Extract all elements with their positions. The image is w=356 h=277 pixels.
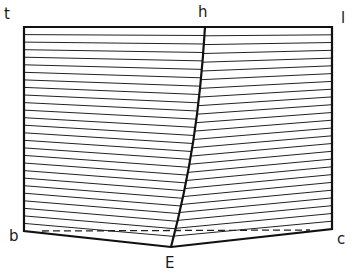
dashed-baseline <box>42 230 310 231</box>
label-b: b <box>9 227 19 245</box>
label-c: c <box>337 230 345 248</box>
hatch-line-left <box>24 216 176 229</box>
label-h: h <box>198 3 208 21</box>
hatch-line-right <box>204 43 332 45</box>
wedge-diagram: t h l b E c <box>0 0 356 277</box>
label-e: E <box>165 254 174 272</box>
hatch-line-left <box>24 65 202 70</box>
hatch-line-left <box>24 208 178 221</box>
hatch-line-right <box>201 74 332 80</box>
hatch-line-right <box>180 198 333 213</box>
hatch-line-right <box>196 113 332 123</box>
hatch-line-left <box>24 201 179 214</box>
hatch-line-left <box>24 72 201 78</box>
hatch-line-right <box>203 58 333 62</box>
hatch-line-left <box>24 178 184 191</box>
hatch-line-right <box>202 66 332 71</box>
left-hatching <box>24 35 205 237</box>
hatch-line-right <box>197 105 332 115</box>
hatch-line-left <box>24 87 199 94</box>
hatch-line-left <box>24 42 204 44</box>
hatch-line-right <box>188 159 332 172</box>
hatch-line-right <box>198 97 332 106</box>
hatch-line-right <box>199 89 332 97</box>
label-l: l <box>341 9 345 27</box>
hatch-line-left <box>24 118 195 128</box>
hatch-line-right <box>204 35 332 36</box>
label-t: t <box>4 5 10 23</box>
hatch-line-left <box>24 50 203 53</box>
hatch-line-right <box>200 81 332 88</box>
hatch-line-right <box>183 182 332 196</box>
hatch-line-right <box>181 190 332 204</box>
hatch-line-left <box>24 57 203 61</box>
hatch-line-right <box>186 167 332 181</box>
hatch-line-left <box>24 80 200 86</box>
hatch-line-left <box>24 95 198 103</box>
hatch-line-right <box>176 214 332 229</box>
hatch-line-right <box>185 175 332 189</box>
hatch-line-right <box>203 50 332 53</box>
right-hatching <box>174 35 332 236</box>
hatch-line-left <box>24 163 187 175</box>
hatch-line-left <box>24 103 197 111</box>
hatch-line-right <box>178 206 332 221</box>
hatch-line-right <box>189 151 332 164</box>
hatch-line-left <box>24 193 181 206</box>
hatch-line-left <box>24 35 205 36</box>
hatch-line-right <box>174 221 332 236</box>
hatch-line-left <box>24 171 186 183</box>
hatch-line-left <box>24 186 183 199</box>
hatch-line-left <box>24 110 196 119</box>
hatch-line-right <box>191 144 332 157</box>
